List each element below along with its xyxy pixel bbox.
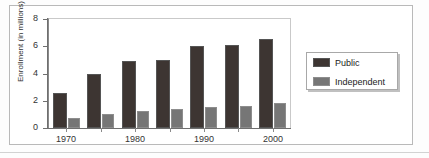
x-tick xyxy=(204,128,205,132)
bar-group xyxy=(259,19,286,128)
legend-swatch-public-icon xyxy=(313,58,330,67)
y-axis: Enrollment (in millions) xyxy=(0,0,41,158)
bar-independent xyxy=(240,106,252,128)
bar-independent xyxy=(68,118,80,128)
x-tick-label: 1970 xyxy=(46,134,86,144)
y-tick xyxy=(43,101,48,102)
chart-figure: Enrollment (in millions) 02468 197019801… xyxy=(0,0,429,158)
bar-independent xyxy=(171,109,183,128)
y-tick xyxy=(43,46,48,47)
bar-independent xyxy=(137,111,149,128)
x-tick-label: 1990 xyxy=(184,134,224,144)
bar-group xyxy=(87,19,114,128)
legend-item-public: Public xyxy=(307,53,397,72)
chart-legend: Public Independent xyxy=(306,52,398,90)
bar-independent xyxy=(102,114,114,128)
y-tick xyxy=(43,74,48,75)
x-tick-label: 2000 xyxy=(253,134,293,144)
x-tick xyxy=(101,128,102,132)
y-tick-label: 8 xyxy=(4,14,38,23)
legend-item-independent: Independent xyxy=(307,72,397,91)
y-tick-label: 4 xyxy=(4,69,38,78)
x-tick-label: 1980 xyxy=(115,134,155,144)
bar-independent xyxy=(274,103,286,128)
bar-group xyxy=(122,19,149,128)
x-tick xyxy=(170,128,171,132)
x-tick xyxy=(135,128,136,132)
bar-public xyxy=(87,74,101,129)
y-tick xyxy=(43,19,48,20)
bar-public xyxy=(190,46,204,128)
bar-independent xyxy=(205,107,217,128)
y-tick-label: 0 xyxy=(4,123,38,132)
bar-group xyxy=(156,19,183,128)
y-tick-label: 2 xyxy=(4,96,38,105)
bar-public xyxy=(122,61,136,128)
bar-group xyxy=(225,19,252,128)
y-tick xyxy=(43,128,48,129)
bar-public xyxy=(156,60,170,128)
bar-public xyxy=(225,45,239,128)
x-axis-line xyxy=(47,128,291,129)
bar-group xyxy=(190,19,217,128)
bar-group xyxy=(53,19,80,128)
page-rule xyxy=(0,152,429,153)
bar-public xyxy=(259,39,273,128)
legend-swatch-independent-icon xyxy=(313,77,330,86)
x-tick xyxy=(66,128,67,132)
legend-label-public: Public xyxy=(335,58,360,68)
x-tick xyxy=(238,128,239,132)
bar-groups xyxy=(49,19,290,128)
y-tick-label: 6 xyxy=(4,41,38,50)
legend-label-independent: Independent xyxy=(335,77,385,87)
bar-public xyxy=(53,93,67,128)
x-tick xyxy=(273,128,274,132)
